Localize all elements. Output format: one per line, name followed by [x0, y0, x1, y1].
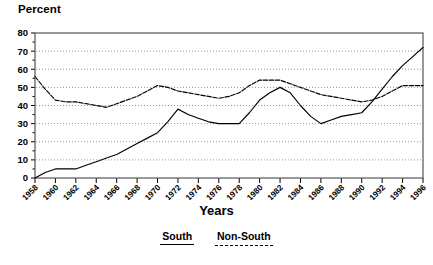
svg-text:1958: 1958 [21, 183, 41, 200]
svg-text:1962: 1962 [62, 183, 82, 200]
svg-text:1972: 1972 [164, 183, 184, 200]
svg-text:1990: 1990 [347, 183, 367, 200]
svg-text:1970: 1970 [143, 183, 163, 200]
legend-label-non-south: Non-South [215, 230, 273, 244]
x-axis-tick-labels: 1958196019621964196619681970197219741976… [21, 183, 429, 200]
x-axis-title: Years [0, 203, 433, 218]
data-series [35, 48, 423, 179]
svg-text:1988: 1988 [327, 183, 347, 200]
svg-text:1968: 1968 [123, 183, 143, 200]
svg-text:1986: 1986 [307, 183, 327, 200]
svg-text:20: 20 [17, 136, 28, 147]
svg-text:1976: 1976 [204, 183, 224, 200]
series-line-non-south [35, 77, 423, 108]
svg-text:1994: 1994 [388, 183, 408, 200]
svg-text:1966: 1966 [102, 183, 122, 200]
svg-text:0: 0 [23, 172, 28, 183]
svg-text:1996: 1996 [409, 183, 429, 200]
svg-text:1964: 1964 [82, 183, 102, 200]
y-axis-title: Percent [18, 3, 61, 15]
svg-text:1960: 1960 [41, 183, 61, 200]
svg-text:1978: 1978 [225, 183, 245, 200]
chart-legend: South Non-South [0, 230, 433, 246]
svg-text:10: 10 [17, 154, 28, 165]
legend-swatch-south [160, 244, 194, 245]
svg-text:1992: 1992 [368, 183, 388, 200]
legend-label-south: South [160, 230, 194, 244]
chart-figure: Percent 19581960196219641966196819701972… [0, 0, 433, 265]
y-axis-tick-labels: 01020304050607080 [17, 27, 28, 183]
svg-text:30: 30 [17, 118, 28, 129]
svg-text:50: 50 [17, 82, 28, 93]
svg-text:1974: 1974 [184, 183, 204, 200]
series-line-south [35, 48, 423, 179]
legend-item-non-south: Non-South [215, 230, 273, 246]
line-chart-plot: 1958196019621964196619681970197219741976… [0, 0, 433, 200]
svg-text:40: 40 [17, 100, 28, 111]
svg-text:60: 60 [17, 64, 28, 75]
svg-text:80: 80 [17, 27, 28, 38]
svg-text:1982: 1982 [266, 183, 286, 200]
legend-item-south: South [160, 230, 194, 245]
svg-text:1984: 1984 [286, 183, 306, 200]
svg-text:1980: 1980 [245, 183, 265, 200]
x-axis-ticks [35, 178, 423, 183]
legend-swatch-non-south [215, 245, 273, 246]
svg-text:70: 70 [17, 46, 28, 57]
